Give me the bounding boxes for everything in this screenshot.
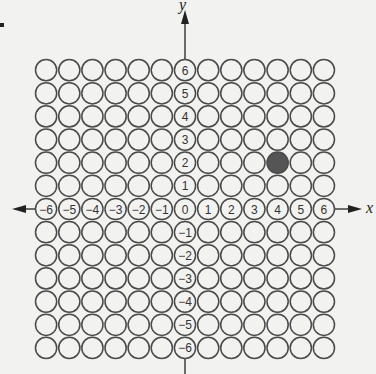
grid-circle xyxy=(198,268,219,289)
grid-circle xyxy=(313,60,334,81)
grid-circle xyxy=(82,245,103,266)
grid-circle xyxy=(313,152,334,173)
grid-circle xyxy=(36,129,57,150)
grid-circle xyxy=(313,291,334,312)
y-tick-label: −6 xyxy=(178,341,192,355)
grid-circle xyxy=(221,83,242,104)
grid-circle xyxy=(151,291,172,312)
grid-circle xyxy=(313,314,334,335)
grid-circle xyxy=(105,129,126,150)
y-tick-label: 2 xyxy=(182,156,189,170)
grid-circle xyxy=(105,175,126,196)
grid-circle xyxy=(198,152,219,173)
grid-circle xyxy=(151,60,172,81)
grid-circle xyxy=(313,175,334,196)
grid-circle xyxy=(59,337,80,358)
grid-circle xyxy=(105,152,126,173)
grid-circle xyxy=(244,268,265,289)
grid-circle xyxy=(198,60,219,81)
grid-circle xyxy=(198,222,219,243)
grid-circle xyxy=(221,291,242,312)
grid-circle xyxy=(59,129,80,150)
grid-circle xyxy=(151,314,172,335)
grid-circle xyxy=(244,129,265,150)
grid-circle xyxy=(105,314,126,335)
grid-circle xyxy=(151,129,172,150)
grid-circle xyxy=(36,175,57,196)
grid-circle xyxy=(128,129,149,150)
x-tick-label: 6 xyxy=(321,203,328,217)
grid-circle xyxy=(313,106,334,127)
grid-circle xyxy=(290,175,311,196)
grid-circle xyxy=(36,222,57,243)
y-tick-label: −2 xyxy=(178,249,192,263)
grid-circle xyxy=(105,337,126,358)
grid-circle xyxy=(128,83,149,104)
grid-circle xyxy=(267,337,288,358)
grid-circle xyxy=(36,60,57,81)
grid-circle xyxy=(290,291,311,312)
grid-circle xyxy=(267,222,288,243)
grid-circle xyxy=(244,152,265,173)
grid-circle xyxy=(244,83,265,104)
grid-circle xyxy=(290,60,311,81)
grid-circle xyxy=(59,152,80,173)
grid-circle xyxy=(105,106,126,127)
x-tick-label: 4 xyxy=(274,203,281,217)
grid-circle xyxy=(82,60,103,81)
grid-circle xyxy=(128,291,149,312)
x-tick-label: 1 xyxy=(205,203,212,217)
y-tick-label: 1 xyxy=(182,179,189,193)
grid-circle xyxy=(244,337,265,358)
grid-circle xyxy=(151,83,172,104)
grid-circle xyxy=(221,268,242,289)
grid-circle xyxy=(313,129,334,150)
grid-circle xyxy=(313,268,334,289)
grid-circle xyxy=(128,268,149,289)
grid-circle xyxy=(82,314,103,335)
grid-circle xyxy=(290,337,311,358)
grid-circle xyxy=(313,245,334,266)
grid-circle xyxy=(128,60,149,81)
grid-circle xyxy=(267,245,288,266)
grid-circle xyxy=(290,222,311,243)
grid-circle xyxy=(244,314,265,335)
grid-circle xyxy=(105,60,126,81)
grid-circle xyxy=(59,222,80,243)
grid-circle xyxy=(290,83,311,104)
grid-circle xyxy=(82,83,103,104)
grid-circle xyxy=(221,60,242,81)
grid-circle xyxy=(198,337,219,358)
grid-circle xyxy=(313,222,334,243)
grid-circle xyxy=(198,129,219,150)
grid-circle xyxy=(151,268,172,289)
x-axis-label: x xyxy=(366,199,373,217)
grid-circle xyxy=(221,222,242,243)
grid-circle xyxy=(36,337,57,358)
grid-circle xyxy=(244,60,265,81)
grid-circle xyxy=(128,314,149,335)
grid-circle xyxy=(105,291,126,312)
grid-circle xyxy=(128,106,149,127)
grid-circle xyxy=(290,129,311,150)
grid-circle xyxy=(267,60,288,81)
grid-circle xyxy=(221,337,242,358)
grid-circle xyxy=(267,83,288,104)
y-tick-label: −4 xyxy=(178,295,192,309)
grid-circle xyxy=(82,152,103,173)
x-tick-label: 3 xyxy=(251,203,258,217)
x-axis-arrow-icon xyxy=(348,205,362,213)
grid-circle xyxy=(198,245,219,266)
grid-circle xyxy=(128,175,149,196)
grid-circle xyxy=(82,337,103,358)
grid-circle xyxy=(244,291,265,312)
x-tick-label: −5 xyxy=(62,203,76,217)
grid-circle xyxy=(105,245,126,266)
grid-circle xyxy=(151,245,172,266)
grid-circle xyxy=(105,222,126,243)
grid-circle xyxy=(267,106,288,127)
grid-circle xyxy=(105,268,126,289)
grid-circle xyxy=(244,245,265,266)
grid-circle xyxy=(128,245,149,266)
x-tick-label: −2 xyxy=(132,203,146,217)
